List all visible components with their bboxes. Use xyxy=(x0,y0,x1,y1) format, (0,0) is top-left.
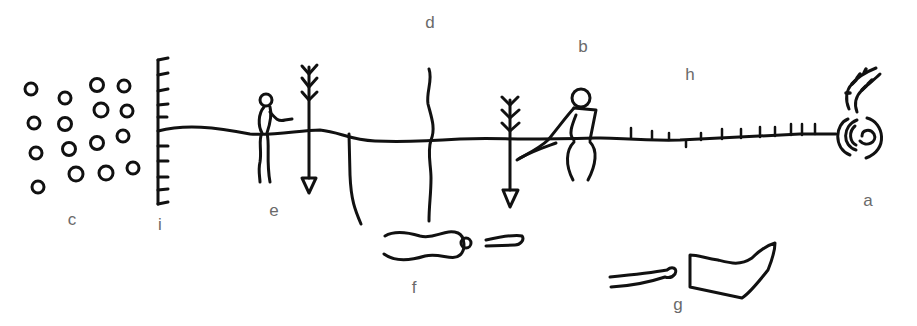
petroglyph-diagram: a b c d e f g h i xyxy=(0,0,917,326)
human-figure-b xyxy=(517,89,596,180)
boot-figure-g xyxy=(610,243,775,298)
spiral-figure-a xyxy=(838,68,882,158)
label-h: h xyxy=(685,66,694,83)
tree-arrow-2 xyxy=(502,97,519,207)
label-f: f xyxy=(412,279,417,296)
stake-line xyxy=(349,134,361,224)
petroglyph-drawing xyxy=(0,0,917,326)
label-b: b xyxy=(578,38,587,55)
label-e: e xyxy=(269,202,278,219)
human-figure-e xyxy=(259,94,292,182)
body-figure-f xyxy=(384,232,523,260)
wavy-line-d xyxy=(428,69,433,221)
label-i: i xyxy=(158,216,162,233)
label-d: d xyxy=(425,14,434,31)
label-a: a xyxy=(863,192,872,209)
label-g: g xyxy=(673,296,682,313)
circle-cluster-c xyxy=(25,79,139,194)
label-c: c xyxy=(68,211,77,228)
